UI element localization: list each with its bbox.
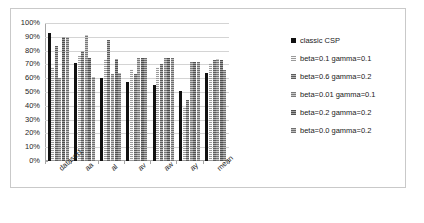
y-axis-tick-label: 50%: [25, 88, 40, 96]
bar[interactable]: [179, 91, 182, 161]
legend-swatch-icon: [291, 38, 296, 43]
legend-swatch-icon: [291, 110, 296, 115]
x-axis-tick-label: aa: [83, 160, 95, 172]
bar-group: [203, 23, 229, 161]
bar[interactable]: [213, 60, 216, 161]
y-axis-tick-label: 70%: [25, 60, 40, 68]
bar[interactable]: [164, 58, 167, 162]
x-axis-tick-mark: [45, 161, 46, 164]
x-axis-tick-label: ay: [188, 161, 200, 173]
bar[interactable]: [81, 51, 84, 161]
bar[interactable]: [205, 73, 208, 161]
bar[interactable]: [107, 40, 110, 161]
bar[interactable]: [156, 67, 159, 161]
bar[interactable]: [141, 58, 144, 162]
legend-swatch-icon: [291, 128, 296, 133]
bar[interactable]: [104, 59, 107, 161]
bar[interactable]: [144, 58, 147, 162]
bar[interactable]: [197, 62, 200, 161]
bar[interactable]: [62, 37, 65, 161]
x-axis-tick-label: aw: [162, 160, 175, 173]
legend-item[interactable]: beta=0.6 gamma=0.2: [291, 67, 403, 85]
bar[interactable]: [137, 58, 140, 162]
y-axis-tick-label: 40%: [25, 102, 40, 110]
x-axis-tick-mark: [98, 161, 99, 164]
bar[interactable]: [223, 70, 226, 161]
y-axis-tick-label: 30%: [25, 116, 40, 124]
legend-item-label: beta=0.0 gamma=0.2: [300, 126, 371, 135]
y-axis-tick-label: 0%: [29, 157, 40, 165]
legend-item-label: beta=0.6 gamma=0.2: [300, 72, 371, 81]
bar[interactable]: [209, 63, 212, 161]
legend-item[interactable]: beta=0.01 gamma=0.1: [291, 85, 403, 103]
legend-item-label: beta=0.01 gamma=0.1: [300, 90, 375, 99]
bar-group: [71, 23, 97, 161]
legend-item-label: classic CSP: [300, 36, 340, 45]
legend-item-label: beta=0.2 gamma=0.2: [300, 108, 371, 117]
bar[interactable]: [130, 69, 133, 161]
bar[interactable]: [74, 63, 77, 161]
bar[interactable]: [100, 78, 103, 161]
bar[interactable]: [115, 59, 118, 161]
bar[interactable]: [48, 33, 51, 161]
y-axis-tick-label: 60%: [25, 74, 40, 82]
bar[interactable]: [118, 73, 121, 161]
legend-item[interactable]: beta=0.0 gamma=0.2: [291, 121, 403, 139]
bar[interactable]: [134, 74, 137, 161]
bar[interactable]: [193, 62, 196, 161]
bar[interactable]: [126, 82, 129, 161]
bar-group: [98, 23, 124, 161]
bar-group: [124, 23, 150, 161]
bar[interactable]: [220, 60, 223, 161]
x-axis-tick-mark: [203, 161, 204, 164]
bar[interactable]: [51, 67, 54, 161]
y-axis-tick-label: 90%: [25, 33, 40, 41]
bar[interactable]: [160, 64, 163, 161]
x-axis-tick-mark: [124, 161, 125, 164]
bar[interactable]: [85, 35, 88, 161]
y-axis-tick-label: 100%: [21, 19, 40, 27]
x-axis: dataset1aaalavawaymean: [45, 161, 229, 195]
chart-figure: 100%90%80%70%60%50%40%30%20%10%0% datase…: [10, 8, 406, 188]
y-axis-tick-label: 10%: [25, 143, 40, 151]
y-axis-tick-label: 20%: [25, 129, 40, 137]
bar[interactable]: [171, 58, 174, 162]
plot-area: [45, 23, 229, 161]
bar[interactable]: [167, 58, 170, 162]
bar[interactable]: [88, 58, 91, 162]
bar[interactable]: [153, 85, 156, 161]
bar[interactable]: [55, 46, 58, 161]
legend-swatch-icon: [291, 56, 296, 61]
legend-swatch-icon: [291, 74, 296, 79]
bar[interactable]: [111, 74, 114, 161]
legend-swatch-icon: [291, 92, 296, 97]
bar[interactable]: [92, 77, 95, 161]
legend-item[interactable]: beta=0.2 gamma=0.2: [291, 103, 403, 121]
legend-item[interactable]: classic CSP: [291, 31, 403, 49]
bar[interactable]: [66, 37, 69, 161]
x-axis-tick-label: av: [136, 161, 148, 173]
y-axis: 100%90%80%70%60%50%40%30%20%10%0%: [11, 23, 43, 161]
legend-item-label: beta=0.1 gamma=0.1: [300, 54, 371, 63]
bar-group: [176, 23, 202, 161]
bar-group: [45, 23, 71, 161]
bar[interactable]: [183, 107, 186, 161]
legend-item[interactable]: beta=0.1 gamma=0.1: [291, 49, 403, 67]
bar[interactable]: [58, 78, 61, 161]
x-axis-tick-label: al: [109, 162, 119, 173]
bar[interactable]: [186, 100, 189, 161]
bar[interactable]: [190, 62, 193, 161]
bar[interactable]: [216, 59, 219, 161]
chart-legend: classic CSPbeta=0.1 gamma=0.1beta=0.6 ga…: [291, 31, 403, 139]
x-axis-tick-mark: [150, 161, 151, 164]
y-axis-tick-label: 80%: [25, 47, 40, 55]
bar-group: [150, 23, 176, 161]
x-axis-tick-mark: [176, 161, 177, 164]
